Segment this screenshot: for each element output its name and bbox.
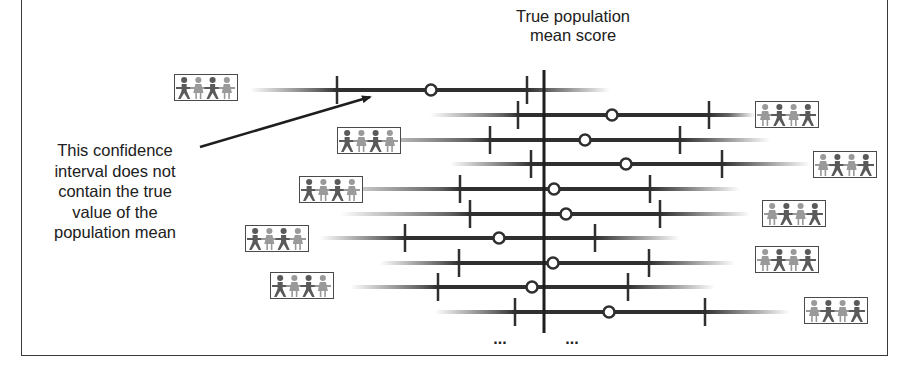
people-group-icon [804, 297, 868, 324]
sample-mean-circle [494, 233, 505, 244]
ellipsis-right: ... [565, 330, 578, 347]
confidence-interval-diagram: ... ... [0, 0, 913, 372]
sample-mean-circle [604, 307, 615, 318]
sample-mean-circle [607, 110, 618, 121]
sample-mean-circle [548, 258, 559, 269]
sample-mean-circle [549, 184, 560, 195]
confidence-interval-row [320, 175, 740, 203]
confidence-interval-row [340, 126, 770, 154]
people-group-icon [337, 127, 401, 154]
people-group-icon [270, 272, 334, 299]
people-group-icon [755, 246, 819, 273]
people-group-icon [762, 200, 826, 227]
confidence-interval-row [430, 101, 755, 129]
sample-mean-circle [527, 282, 538, 293]
people-group-icon [245, 225, 309, 252]
people-group-icon [174, 74, 238, 101]
people-group-icon [755, 101, 819, 128]
sample-mean-circle [580, 135, 591, 146]
sample-mean-circle [426, 85, 437, 96]
sample-mean-circle [621, 159, 632, 170]
ellipsis-left: ... [493, 330, 506, 347]
people-group-icon [813, 151, 877, 178]
people-group-icon [299, 176, 363, 203]
sample-mean-circle [561, 209, 572, 220]
sample-means [426, 85, 632, 318]
